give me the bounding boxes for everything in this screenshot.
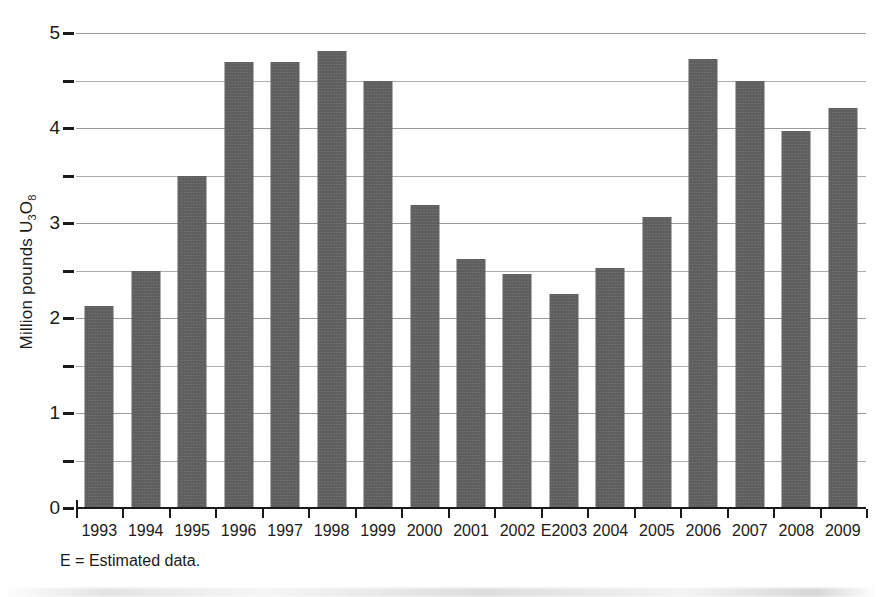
bar-slot bbox=[587, 33, 633, 508]
uranium-production-bar-chart: Million pounds U3O8 012345 1993199419951… bbox=[0, 0, 877, 597]
x-axis-tick bbox=[76, 509, 78, 518]
x-axis-tick bbox=[308, 509, 310, 518]
y-axis-tick-label: 5 bbox=[34, 22, 60, 44]
y-axis-tick bbox=[63, 80, 74, 83]
y-axis-tick bbox=[63, 507, 74, 510]
y-axis-tick bbox=[63, 365, 74, 368]
bar bbox=[364, 81, 393, 509]
y-axis-tick-label: 3 bbox=[34, 212, 60, 234]
y-axis-tick-label: 0 bbox=[34, 497, 60, 519]
footnote: E = Estimated data. bbox=[60, 552, 200, 570]
bar bbox=[735, 81, 764, 508]
x-axis-tick bbox=[541, 509, 543, 518]
x-axis-tick bbox=[587, 509, 589, 518]
x-axis-tick-label: 2009 bbox=[813, 522, 873, 540]
bar bbox=[596, 268, 625, 508]
x-axis-tick bbox=[634, 509, 636, 518]
x-axis-tick-labels: 1993199419951996199719981999200020012002… bbox=[76, 522, 866, 544]
x-axis-tick bbox=[727, 509, 729, 518]
bar bbox=[317, 51, 346, 508]
bar bbox=[85, 306, 114, 508]
bar-slot bbox=[494, 33, 540, 508]
bar-slot bbox=[634, 33, 680, 508]
y-axis-tick-label: 4 bbox=[34, 117, 60, 139]
bar bbox=[178, 176, 207, 508]
x-axis-tick bbox=[680, 509, 682, 518]
bar-slot bbox=[680, 33, 726, 508]
bar-slot bbox=[122, 33, 168, 508]
bar-slot bbox=[727, 33, 773, 508]
y-axis-tick-label: 1 bbox=[34, 402, 60, 424]
x-axis-tick bbox=[355, 509, 357, 518]
x-axis-tick bbox=[401, 509, 403, 518]
bar bbox=[271, 62, 300, 509]
bar bbox=[456, 259, 485, 508]
x-axis-tick bbox=[169, 509, 171, 518]
bar-slot bbox=[401, 33, 447, 508]
bar bbox=[689, 59, 718, 508]
x-axis-tick bbox=[866, 509, 868, 518]
bar-slot bbox=[541, 33, 587, 508]
y-axis-tick bbox=[63, 460, 74, 463]
y-axis-tick bbox=[63, 222, 74, 225]
x-axis-tick bbox=[262, 509, 264, 518]
x-axis-tick bbox=[122, 509, 124, 518]
bar bbox=[503, 274, 532, 508]
bar bbox=[782, 131, 811, 508]
x-axis-tick bbox=[448, 509, 450, 518]
bar-slot bbox=[169, 33, 215, 508]
x-axis-tick bbox=[215, 509, 217, 518]
bar-slot bbox=[355, 33, 401, 508]
bar-slot bbox=[448, 33, 494, 508]
scan-artifact bbox=[0, 588, 877, 597]
bar-slot bbox=[215, 33, 261, 508]
bar bbox=[828, 108, 857, 508]
y-axis-tick bbox=[63, 317, 74, 320]
y-axis-tick bbox=[63, 270, 74, 273]
bar bbox=[131, 271, 160, 509]
bar bbox=[224, 62, 253, 509]
bar-series bbox=[76, 33, 866, 508]
x-axis-tick bbox=[820, 509, 822, 518]
bar-slot bbox=[262, 33, 308, 508]
y-axis-tick bbox=[63, 32, 74, 35]
y-axis-tick bbox=[63, 175, 74, 178]
x-axis-ticks bbox=[76, 509, 866, 518]
x-axis-tick bbox=[494, 509, 496, 518]
bar-slot bbox=[773, 33, 819, 508]
bar bbox=[549, 294, 578, 508]
bar-slot bbox=[308, 33, 354, 508]
bar-slot bbox=[76, 33, 122, 508]
y-axis-tick-label: 2 bbox=[34, 307, 60, 329]
y-axis-origin-tick bbox=[76, 500, 78, 509]
bar bbox=[642, 217, 671, 508]
y-axis-tick bbox=[63, 127, 74, 130]
x-axis-tick bbox=[773, 509, 775, 518]
bar bbox=[410, 205, 439, 508]
y-axis-tick bbox=[63, 412, 74, 415]
y-axis-tick-labels: 012345 bbox=[34, 33, 60, 508]
bar-slot bbox=[820, 33, 866, 508]
